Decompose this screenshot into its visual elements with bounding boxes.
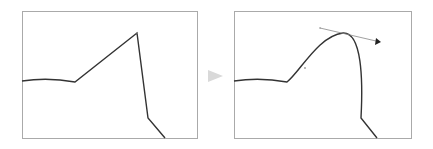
- after-frame: [235, 12, 412, 139]
- before-panel: [22, 12, 198, 139]
- figure-canvas: [0, 0, 433, 149]
- before-frame: [23, 12, 198, 139]
- play-arrow-icon: [208, 70, 223, 82]
- path-point-marker: [304, 67, 306, 69]
- after-panel: [234, 12, 412, 139]
- handle-endpoint: [319, 27, 321, 29]
- corner-anchor-point: [136, 32, 138, 34]
